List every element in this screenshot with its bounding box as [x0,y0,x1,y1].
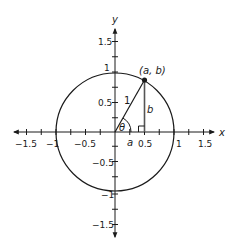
y-tick-label: 1.5 [98,37,112,47]
vertical-leg-label: b [147,104,153,115]
y-tick-label: −1.5 [92,220,114,230]
x-tick-label: −1.5 [15,139,37,149]
point-label: (a, b) [139,65,166,76]
x-tick-label: −1 [46,139,59,149]
unit-circle-diagram: x y −1.5 −1 −0.5 0.5 1 1.5 1.5 1 0.5 −0.… [0,0,239,250]
y-tick-label: 1 [104,63,110,73]
angle-theta-label: θ [119,122,125,133]
x-tick-label: 1 [176,139,182,149]
x-axis-label: x [218,127,225,138]
y-tick-label: −1 [101,190,114,200]
x-tick-label: 1.5 [198,139,212,149]
x-tick-label: 0.5 [138,139,152,149]
y-axis-label: y [111,14,119,25]
x-tick-label: −0.5 [74,139,96,149]
right-angle-marker [139,126,145,132]
point-a-b [142,77,147,82]
hypotenuse-label: 1 [124,95,130,106]
horizontal-leg-label: a [127,137,133,148]
y-tick-label: −0.5 [92,158,114,168]
y-tick-label: 0.5 [98,98,112,108]
